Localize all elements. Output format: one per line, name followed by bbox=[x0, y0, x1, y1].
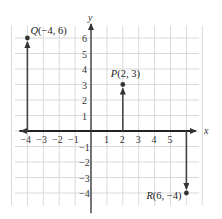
axes: xy bbox=[19, 12, 208, 213]
point-Q-label: Q(−4, 6) bbox=[30, 25, 67, 37]
x-tick-label: −3 bbox=[36, 134, 47, 145]
y-tick-label: −2 bbox=[79, 157, 90, 168]
y-tick-label: 3 bbox=[82, 80, 87, 91]
y-axis-label: y bbox=[87, 12, 93, 23]
x-tick-label: 1 bbox=[104, 134, 109, 145]
point-Q-dot bbox=[25, 36, 30, 41]
x-tick-label: 2 bbox=[120, 134, 125, 145]
point-P-dot bbox=[120, 82, 125, 87]
grid-lines bbox=[12, 26, 203, 206]
y-tick-label: 4 bbox=[82, 64, 87, 75]
point-R-label: R(6, −4) bbox=[145, 190, 182, 202]
y-tick-label: 5 bbox=[82, 49, 87, 60]
y-tick-label: −1 bbox=[79, 142, 90, 153]
x-tick-label: 3 bbox=[136, 134, 141, 145]
y-tick-label: 6 bbox=[82, 33, 87, 44]
x-tick-label: 5 bbox=[168, 134, 173, 145]
y-tick-label: 1 bbox=[82, 111, 87, 122]
x-tick-label: −2 bbox=[52, 134, 63, 145]
y-tick-label: −3 bbox=[79, 173, 90, 184]
y-tick-label: 2 bbox=[82, 95, 87, 106]
x-tick-label: −1 bbox=[68, 134, 79, 145]
point-P-label: P(2, 3) bbox=[110, 68, 141, 80]
coordinate-plane: xy −4−3−2−112345654321−1−2−3−4 Q(−4, 6)P… bbox=[0, 0, 222, 219]
y-tick-label: −4 bbox=[79, 188, 90, 199]
x-axis-label: x bbox=[203, 125, 209, 136]
x-tick-label: −4 bbox=[20, 134, 31, 145]
point-R-dot bbox=[184, 191, 189, 196]
x-tick-label: 4 bbox=[152, 134, 157, 145]
